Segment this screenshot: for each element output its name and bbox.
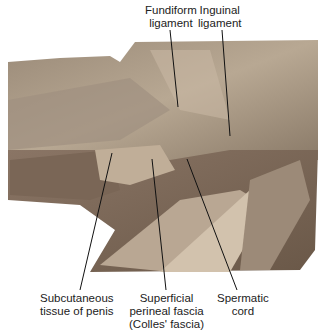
label-superficial-perineal-fascia: Superficial perineal fascia (Colles' fas… [129, 292, 204, 331]
label-subcutaneous-tissue: Subcutaneous tissue of penis [40, 292, 114, 318]
label-fundiform-ligament: Fundiform ligament [145, 4, 197, 30]
label-inguinal-ligament: Inguinal ligament [198, 4, 241, 30]
label-spermatic-cord: Spermatic cord [217, 292, 269, 318]
